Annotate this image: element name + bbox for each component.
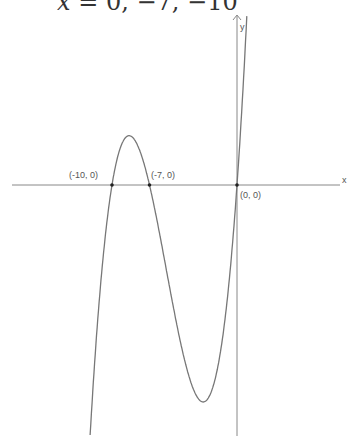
root-point-minus-10 [110, 183, 114, 187]
chart-root: x = 0, −7, −10 x y (-10, 0) (-7, 0) (0, … [0, 0, 348, 441]
annotation-root-origin: (0, 0) [240, 190, 261, 200]
root-point-origin [235, 183, 239, 187]
y-axis-label: y [240, 22, 245, 32]
annotation-root-minus-7: (-7, 0) [151, 170, 175, 180]
x-axis-label: x [342, 175, 347, 185]
cubic-curve [90, 16, 247, 435]
annotation-root-minus-10: (-10, 0) [69, 170, 98, 180]
cubic-plot: x y (-10, 0) (-7, 0) (0, 0) [0, 0, 348, 441]
root-point-minus-7 [148, 183, 152, 187]
